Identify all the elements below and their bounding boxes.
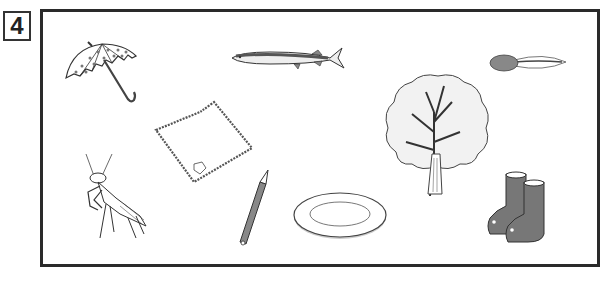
pencil-icon xyxy=(236,170,272,246)
boots-icon xyxy=(486,170,552,244)
plate-picture[interactable] xyxy=(292,190,388,242)
tadpole-picture[interactable] xyxy=(484,50,570,76)
fish-icon xyxy=(230,44,350,74)
tadpole-icon xyxy=(484,50,570,76)
tree-picture[interactable] xyxy=(382,72,492,196)
praying-mantis-picture[interactable] xyxy=(80,152,156,242)
umbrella-icon xyxy=(62,38,142,110)
plate-icon xyxy=(292,190,388,242)
mantis-icon xyxy=(80,152,156,242)
pencil-picture[interactable] xyxy=(236,170,272,246)
umbrella-picture[interactable] xyxy=(62,38,142,110)
rain-boots-picture[interactable] xyxy=(486,170,552,244)
question-number: 4 xyxy=(3,11,31,41)
tree-icon xyxy=(382,72,492,196)
saury-fish-picture[interactable] xyxy=(230,44,350,74)
